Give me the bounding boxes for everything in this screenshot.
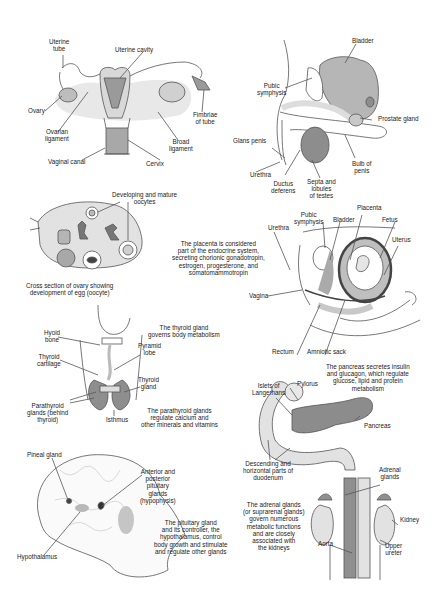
label-ovarian-ligament: Ovarian ligament [45,128,69,142]
label-rectum: Rectum [272,348,294,355]
label-thyroid-gland: Thyroid gland [138,376,159,390]
label-ductus-deferens: Ductus deferens [271,180,296,194]
adrenal-kidney-illustration [311,478,398,580]
label-amniotic-sack: Amniotic sack [307,348,346,355]
label-parathyroid: Parathyroid glands (behind thyroid) [27,402,68,424]
label-pubic-symphysis-2: Pubic symphysis [294,211,323,225]
parathyroid-description: The parathyroid glands regulate calcium … [141,407,218,429]
label-prostate-gland: Prostate gland [378,115,419,122]
label-kidney: Kidney [400,516,419,523]
label-isthmus: Isthmus [106,416,128,423]
label-placenta: Placenta [357,204,382,211]
label-broad-ligament: Broad ligament [169,138,193,152]
label-urethra-2: Urethra [268,224,289,231]
label-duodenum: Descending and horizontal parts of duode… [243,460,293,482]
ovary-caption: Cross section of ovary showing developme… [26,282,113,296]
label-ovary: Ovary [28,107,45,114]
thyroid-illustration [58,305,142,416]
label-hypothalamus: Hypothalamus [17,553,57,560]
endocrine-reproductive-diagram [0,0,445,607]
thyroid-description: The thyroid gland governs body metabolis… [148,324,220,338]
label-pylorus: Pylorus [297,380,318,387]
label-vagina: Vagina [249,292,268,299]
label-pituitary: Anterior and posterior pituitary glands … [140,468,176,504]
ovary-cross-section-illustration [30,202,142,269]
label-aorta: Aorta [318,540,333,547]
label-vaginal-canal: Vaginal canal [48,158,85,165]
label-fetus: Fetus [382,216,398,223]
label-pancreas: Pancreas [364,422,391,429]
label-pyramid-lobe: Pyramid lobe [138,342,161,356]
label-urethra: Urethra [250,171,271,178]
label-pineal-gland: Pineal gland [27,451,62,458]
label-pubic-symphysis: Pubic symphysis [257,82,286,96]
placenta-description: The placenta is considered part of the e… [172,240,265,276]
pituitary-description: The pituitary gland and its controller, … [154,519,228,555]
label-uterine-tube: Uterine tube [49,38,69,52]
label-cervix: Cervix [146,160,164,167]
label-oocytes: Developing and mature oocytes [112,191,177,205]
label-upper-ureter: Upper ureter [385,542,402,556]
label-bulb-of-penis: Bulb of penis [352,160,372,174]
label-thyroid-cartilage: Thyroid cartilage [37,353,61,367]
adrenal-description: The adrenal glands (or suprarenal glands… [243,501,305,551]
label-septa-lobules: Septa and lobules of testes [307,178,336,200]
label-bladder-2: Bladder [333,216,355,223]
label-fimbriae: Fimbriae of tube [193,111,218,125]
label-uterine-cavity: Uterine cavity [115,46,153,53]
label-islets: Islets of Langerhans [252,382,285,396]
label-bladder: Bladder [352,37,374,44]
label-uterus: Uterus [392,236,411,243]
label-glans-penis: Glans penis [233,137,266,144]
male-reproductive-illustration [256,40,387,178]
label-adrenal-glands: Adrenal glands [379,466,401,480]
pancreas-description: The pancreas secretes insulin and glucag… [326,363,410,392]
label-hyoid-bone: Hyoid bone [44,329,60,343]
